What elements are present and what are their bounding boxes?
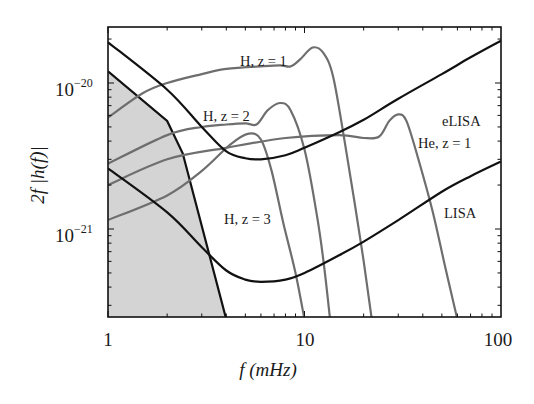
- x-tick-labels: 1 10 100: [103, 329, 512, 350]
- label-he-z-1: He, z = 1: [418, 135, 471, 151]
- y-tick-1e-20: 10−20: [55, 76, 93, 100]
- plot-area: eLISALISAH, z = 1H, z = 2H, z = 3He, z =…: [108, 41, 501, 320]
- x-tick-1: 1: [103, 329, 113, 350]
- curve-labels: eLISALISAH, z = 1H, z = 2H, z = 3He, z =…: [203, 53, 481, 227]
- y-tick-labels: 10−20 10−21: [55, 76, 93, 246]
- label-h-z-3: H, z = 3: [224, 211, 271, 227]
- y-tick-1e-21: 10−21: [55, 222, 93, 246]
- x-axis-label: f (mHz): [239, 359, 297, 381]
- label-elisa: eLISA: [442, 113, 481, 129]
- x-tick-10: 10: [296, 329, 315, 350]
- y-axis-label: 2f |h(f)|: [27, 146, 49, 203]
- label-lisa: LISA: [444, 205, 477, 221]
- label-h-z-2: H, z = 2: [203, 108, 250, 124]
- label-h-z-1: H, z = 1: [240, 53, 287, 69]
- gw-strain-chart: eLISALISAH, z = 1H, z = 2H, z = 3He, z =…: [0, 0, 534, 404]
- x-tick-100: 100: [484, 329, 513, 350]
